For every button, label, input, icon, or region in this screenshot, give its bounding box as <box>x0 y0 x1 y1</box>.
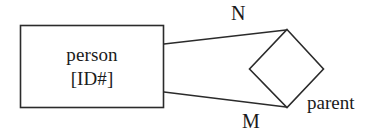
entity-label-group: person [ID#] <box>20 25 164 108</box>
entity-name-label: person <box>66 44 117 65</box>
cardinality-label-lower: M <box>242 111 260 131</box>
entity-key-label: [ID#] <box>71 68 114 89</box>
er-diagram-canvas: person [ID#] N M parent <box>0 0 387 140</box>
connector-line-lower <box>164 92 286 107</box>
relationship-name-label: parent <box>307 93 354 112</box>
connector-line-upper <box>164 30 286 44</box>
cardinality-label-upper: N <box>231 3 245 23</box>
